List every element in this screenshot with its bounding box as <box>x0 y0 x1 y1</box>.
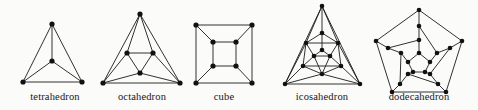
graph-edge <box>103 73 140 83</box>
graph-edge <box>23 24 52 82</box>
vertices-tetrahedron <box>20 21 84 84</box>
edges-tetrahedron <box>23 24 82 82</box>
graph-icosahedron <box>283 4 363 87</box>
graph-vertex <box>374 39 379 44</box>
graph-vertex <box>124 50 129 55</box>
graph-edge <box>376 10 419 41</box>
graph-tetrahedron <box>20 21 84 84</box>
graphs-layer <box>20 4 464 95</box>
graph-edge <box>322 6 360 84</box>
graph-edge <box>322 6 338 43</box>
graph-vertex <box>328 54 333 59</box>
graph-vertex <box>411 70 416 75</box>
graph-edge <box>236 66 252 83</box>
graph-edge <box>127 14 140 53</box>
graph-vertex <box>417 8 422 13</box>
graph-edge <box>196 25 213 42</box>
graph-vertex <box>336 41 341 46</box>
graph-vertex <box>320 4 325 9</box>
graph-dodecahedron <box>374 8 465 95</box>
solid-label-octahedron: octahedron <box>118 91 167 102</box>
graph-vertex <box>358 82 363 87</box>
graph-edge <box>285 43 306 84</box>
graph-vertex <box>312 54 317 59</box>
graph-vertex <box>79 79 84 84</box>
graph-edge <box>140 53 153 73</box>
graph-vertex <box>386 46 391 51</box>
graph-vertex <box>448 46 453 51</box>
graph-vertex <box>49 58 54 63</box>
graph-vertex <box>233 63 238 68</box>
graph-vertex <box>406 72 411 77</box>
graph-vertex <box>150 50 155 55</box>
graph-vertex <box>406 60 411 65</box>
graph-cube <box>193 22 254 85</box>
graph-vertex <box>20 79 25 84</box>
solid-label-cube: cube <box>214 91 235 102</box>
graph-vertex <box>398 82 403 87</box>
graph-vertex <box>435 51 440 56</box>
graph-vertex <box>301 64 306 69</box>
graph-vertex <box>210 63 215 68</box>
platonic-solids-figure: tetrahedronoctahedroncubeicosahedrondode… <box>0 0 478 110</box>
graph-vertex <box>210 39 215 44</box>
solid-label-icosahedron: icosahedron <box>296 91 349 102</box>
solid-label-tetrahedron: tetrahedron <box>30 91 80 102</box>
graph-edge <box>236 25 252 42</box>
graph-edge <box>103 14 140 83</box>
graph-octahedron <box>100 11 182 85</box>
graph-edge <box>196 66 213 83</box>
graph-edge <box>140 73 180 83</box>
graph-edge <box>140 14 180 83</box>
graph-edge <box>419 26 437 53</box>
labels-layer: tetrahedronoctahedroncubeicosahedrondode… <box>30 91 450 102</box>
platonic-solids-svg: tetrahedronoctahedroncubeicosahedrondode… <box>0 0 478 110</box>
graph-vertex <box>460 39 465 44</box>
graph-vertex <box>417 38 422 43</box>
graph-vertex <box>233 39 238 44</box>
graph-vertex <box>137 11 142 16</box>
graph-vertex <box>249 80 254 85</box>
graph-edge <box>52 61 82 82</box>
graph-edge <box>23 61 52 82</box>
graph-edge <box>127 53 140 73</box>
solid-label-dodecahedron: dodecahedron <box>389 91 450 102</box>
graph-vertex <box>193 22 198 27</box>
graph-vertex <box>339 64 344 69</box>
graph-edge <box>338 43 360 84</box>
graph-vertex <box>249 22 254 27</box>
graph-vertex <box>399 51 404 56</box>
graph-vertex <box>49 21 54 26</box>
edges-cube <box>196 25 252 83</box>
graph-vertex <box>320 31 325 36</box>
graph-edge <box>52 24 82 82</box>
graph-vertex <box>423 70 428 75</box>
graph-vertex <box>320 72 325 77</box>
graph-edge <box>400 53 401 84</box>
graph-vertex <box>100 80 105 85</box>
graph-vertex <box>417 24 422 29</box>
graph-vertex <box>428 60 433 65</box>
graph-vertex <box>283 82 288 87</box>
vertices-octahedron <box>100 11 182 85</box>
graph-edge <box>153 53 180 83</box>
graph-edge <box>388 40 419 48</box>
graph-vertex <box>428 72 433 77</box>
graph-vertex <box>436 82 441 87</box>
graph-edge <box>103 53 127 83</box>
graph-vertex <box>304 41 309 46</box>
graph-vertex <box>193 80 198 85</box>
graph-vertex <box>177 80 182 85</box>
graph-vertex <box>417 51 422 56</box>
graph-edge <box>306 6 322 43</box>
graph-vertex <box>137 70 142 75</box>
graph-vertex <box>320 48 325 53</box>
